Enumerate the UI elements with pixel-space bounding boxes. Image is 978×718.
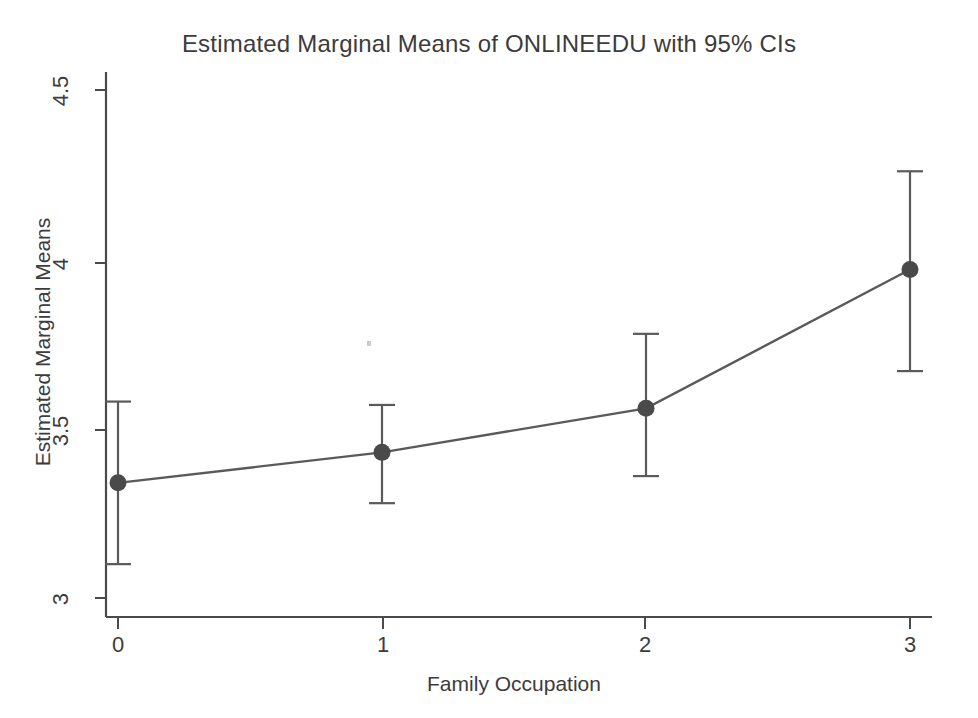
data-markers-group xyxy=(110,261,919,491)
data-point-marker xyxy=(110,474,127,491)
data-point-marker xyxy=(638,400,655,417)
plot-area xyxy=(0,0,978,718)
data-point-marker xyxy=(902,261,919,278)
data-point-marker xyxy=(374,444,391,461)
chart-figure: Estimated Marginal Means of ONLINEEDU wi… xyxy=(0,0,978,718)
error-bars-group xyxy=(105,171,923,564)
series-line-onlineedu xyxy=(118,269,910,482)
